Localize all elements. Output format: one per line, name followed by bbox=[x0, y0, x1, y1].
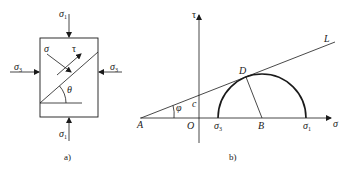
theta-arc bbox=[60, 86, 67, 103]
panel-b-caption: b) bbox=[229, 152, 237, 162]
friction-angle-label: φ bbox=[176, 102, 182, 113]
sigma1-label: σ1 bbox=[303, 120, 311, 132]
sigma3-right-label: σ3 bbox=[110, 61, 118, 73]
panel-a-caption: a) bbox=[64, 152, 71, 162]
sigma-axis-label: σ bbox=[333, 118, 339, 129]
normal-stress-arrow bbox=[47, 54, 71, 72]
panel-a: σ1 σ1 σ3 σ3 σ τ θ a) bbox=[10, 8, 122, 162]
normal-stress-label: σ bbox=[44, 43, 50, 54]
failure-plane-line bbox=[40, 52, 98, 103]
theta-label: θ bbox=[67, 84, 72, 95]
phi-arc bbox=[173, 106, 174, 119]
tau-axis-label: τ bbox=[192, 9, 196, 20]
sigma3-label: σ3 bbox=[214, 120, 222, 132]
mohr-circle bbox=[218, 74, 306, 118]
point-A-label: A bbox=[136, 119, 144, 130]
sigma1-top-label: σ1 bbox=[59, 8, 67, 20]
sigma3-left-label: σ3 bbox=[14, 61, 22, 73]
figure: σ1 σ1 σ3 σ3 σ τ θ a) τ σ A O σ3 B σ1 D L… bbox=[0, 0, 347, 172]
strength-envelope-line bbox=[141, 42, 335, 118]
point-B-label: B bbox=[258, 120, 264, 131]
point-D-label: D bbox=[238, 65, 247, 76]
origin-label: O bbox=[187, 120, 194, 131]
sigma1-bottom-label: σ1 bbox=[59, 128, 67, 140]
radius-BD bbox=[246, 77, 262, 118]
panel-b: τ σ A O σ3 B σ1 D L c φ b) bbox=[136, 9, 339, 162]
cohesion-label: c bbox=[192, 98, 197, 109]
shear-stress-label: τ bbox=[72, 43, 76, 54]
line-L-label: L bbox=[323, 33, 330, 44]
